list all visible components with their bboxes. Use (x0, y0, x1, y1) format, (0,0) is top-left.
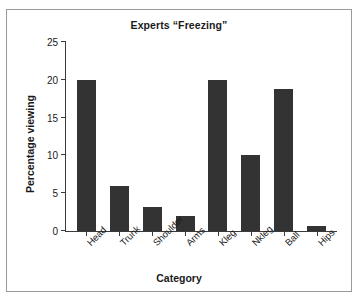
plot-area: 0510152025 (65, 42, 337, 232)
bar-slot (267, 42, 300, 231)
bar-slot (70, 42, 103, 231)
y-axis-tick-label: 15 (47, 112, 58, 123)
bar (143, 207, 162, 231)
figure-frame: Experts “Freezing” Percentage viewing 05… (6, 9, 352, 292)
x-axis-title: Category (7, 272, 351, 284)
bar (274, 89, 293, 231)
bar (110, 186, 129, 231)
bar-chart: Experts “Freezing” Percentage viewing 05… (7, 10, 351, 291)
bar-slot (234, 42, 267, 231)
y-axis-tick-label: 25 (47, 37, 58, 48)
bar (208, 80, 227, 231)
y-axis-tick-label: 5 (52, 188, 58, 199)
y-axis-tick-label: 20 (47, 74, 58, 85)
y-axis-title: Percentage viewing (24, 74, 36, 214)
bar-slot (300, 42, 333, 231)
bar-slot (202, 42, 235, 231)
bar-slot (103, 42, 136, 231)
bar-slot (169, 42, 202, 231)
y-axis-tick-label: 0 (52, 226, 58, 237)
bar (241, 155, 260, 231)
y-axis-tick-label: 10 (47, 150, 58, 161)
bar (77, 80, 96, 231)
bar-slot (136, 42, 169, 231)
bars-layer (66, 42, 337, 231)
chart-title: Experts “Freezing” (7, 19, 351, 31)
